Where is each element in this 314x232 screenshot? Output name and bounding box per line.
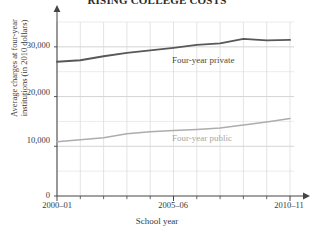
series-label-four-year-public: Four-year public xyxy=(172,133,232,143)
x-tick-label-2010-11: 2010–11 xyxy=(259,200,314,210)
chart-title: RISING COLLEGE COSTS xyxy=(0,0,314,6)
axis-lines xyxy=(54,5,310,199)
x-axis-title: School year xyxy=(0,216,314,226)
x-tick-label-2005-06: 2005–06 xyxy=(143,200,203,210)
y-axis-title-line2: institutions (in 2010 dollars) xyxy=(19,0,29,143)
y-tick-label-20000: 20,000 xyxy=(6,87,50,97)
chart-figure: RISING COLLEGE COSTS Average charges at … xyxy=(0,0,314,232)
y-tick-label-30000: 30,000 xyxy=(6,40,50,50)
series-label-four-year-private: Four-year private xyxy=(172,55,235,65)
y-axis-title: Average charges at four-year institution… xyxy=(9,0,29,143)
y-tick-label-10000: 10,000 xyxy=(6,135,50,145)
y-axis-title-line1: Average charges at four-year xyxy=(9,19,19,117)
x-tick-label-2000-01: 2000–01 xyxy=(27,200,87,210)
y-tick-label-0: 0 xyxy=(6,190,50,200)
